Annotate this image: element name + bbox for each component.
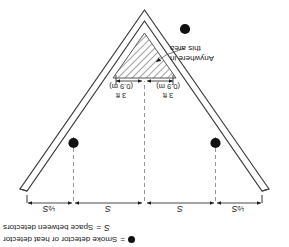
peak-offset-label-right: 3 ft (0.9 m) [99, 82, 143, 99]
dimension-fraction: ½ [238, 204, 245, 213]
peak-offset-label-left: 3 ft (0.9 m) [146, 82, 190, 99]
dimension-label-left-half: ½S [219, 204, 257, 214]
dimension-symbol: S [105, 204, 111, 214]
dimension-fraction: ½ [49, 204, 56, 213]
legend-equals: = [96, 224, 101, 233]
legend: = Smoke detector or heat detector S = Sp… [3, 222, 169, 246]
dimension-symbol: S [232, 204, 238, 214]
legend-symbol-s: S [104, 223, 110, 233]
legend-item-detector-label: Smoke detector or heat detector [3, 236, 117, 245]
dimension-label-right-full: S [94, 204, 122, 214]
detector-right [68, 138, 78, 148]
detector-peak-zone [180, 24, 190, 34]
dimension-label-right-half: ½S [30, 204, 68, 214]
detector-left [210, 138, 220, 148]
peak-offset-left-metric: (0.9 m) [146, 82, 190, 91]
peak-offset-right-metric: (0.9 m) [99, 82, 143, 91]
allowed-detector-zone [113, 33, 176, 78]
allowed-zone-callout: Anywhere in this area [170, 44, 232, 63]
dimension-label-left-full: S [166, 204, 194, 214]
legend-item-spacing: S = Space between detectors [3, 222, 169, 234]
legend-equals: = [120, 236, 125, 245]
projection-lines [74, 81, 216, 201]
dimension-symbol: S [177, 204, 183, 214]
callout-line-1: Anywhere in [170, 54, 232, 64]
legend-item-detector: = Smoke detector or heat detector [3, 234, 169, 246]
filled-circle-icon [128, 237, 135, 244]
legend-item-spacing-label: Space between detectors [3, 224, 93, 233]
peak-offset-left-feet: 3 ft [146, 91, 190, 100]
peak-offset-right-feet: 3 ft [99, 91, 143, 100]
dimension-symbol: S [43, 204, 49, 214]
figure-plate: = Smoke detector or heat detector S = Sp… [0, 0, 289, 247]
callout-line-2: this area [170, 44, 232, 54]
